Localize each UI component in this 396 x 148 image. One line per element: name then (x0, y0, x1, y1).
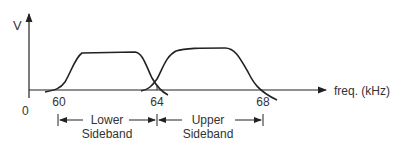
origin-label: 0 (22, 105, 29, 117)
upper-sideband-label-line1: Upper (192, 114, 225, 126)
tick-label-64: 64 (150, 96, 163, 108)
upper-sideband-curve (141, 48, 277, 100)
lower-sideband-label-line1: Lower (91, 114, 124, 126)
lower-sideband-curve (45, 52, 168, 95)
upper-sideband-label-line2: Sideband (183, 128, 234, 140)
y-axis-label: V (13, 19, 22, 32)
lower-sideband-label-line2: Sideband (82, 128, 133, 140)
x-axis-label: freq. (kHz) (334, 85, 390, 97)
tick-label-60: 60 (52, 96, 65, 108)
tick-label-68: 68 (256, 96, 269, 108)
